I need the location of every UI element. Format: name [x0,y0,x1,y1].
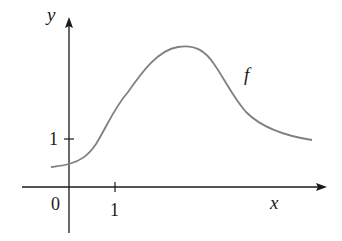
curve-f [51,46,312,167]
function-graph: y x f 0 1 1 [0,0,342,241]
curve-label-f: f [244,64,252,85]
x-axis-label: x [269,192,279,213]
x-tick-label-0: 0 [51,194,60,214]
x-tick-label-1: 1 [110,200,119,220]
y-axis-label: y [45,4,56,25]
y-tick-label-1: 1 [49,129,58,149]
